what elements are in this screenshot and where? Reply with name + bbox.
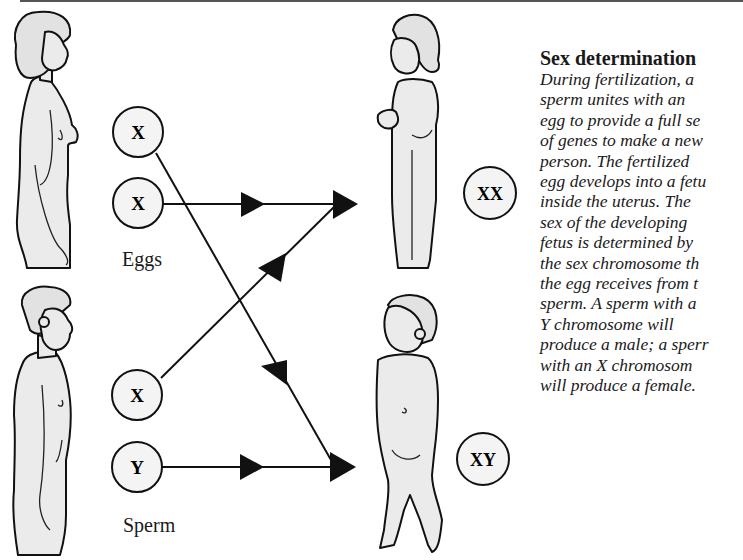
caption-line: egg develops into a fetu — [540, 171, 743, 191]
egg-cell-1-label: X — [131, 122, 145, 143]
sperm-cell-2: Y — [112, 442, 162, 492]
egg-cell-2: X — [113, 178, 163, 228]
girl-figure-icon — [378, 15, 440, 268]
offspring-xx-label: XX — [477, 184, 503, 204]
man-figure-icon — [13, 287, 72, 555]
caption-line: egg to provide a full se — [540, 110, 743, 130]
arrowheads — [240, 190, 358, 482]
offspring-xx-cell: XX — [464, 167, 516, 219]
caption-line: During fertilization, a — [540, 69, 743, 89]
caption-body: During fertilization, a sperm unites wit… — [540, 69, 743, 396]
sperm-cell-1: X — [112, 370, 162, 420]
caption-line: the sex chromosome th — [540, 253, 743, 273]
caption-line: Y chromosome will — [540, 314, 743, 334]
arrow-egg-x-mid-icon — [241, 192, 265, 217]
caption-line: inside the uterus. The — [540, 191, 743, 211]
caption-line: person. The fertilized — [540, 151, 743, 171]
caption-line: of genes to make a new — [540, 130, 743, 150]
offspring-xy-label: XY — [470, 450, 496, 470]
offspring-xy-cell: XY — [457, 433, 509, 485]
woman-figure-icon — [15, 12, 78, 268]
sperm-label: Sperm — [123, 514, 175, 537]
egg-cell-1: X — [113, 107, 163, 157]
arrow-xx-end-icon — [333, 190, 358, 219]
arrow-egg-x-down-mid-icon — [261, 360, 287, 385]
caption-line: fetus is determined by — [540, 232, 743, 252]
arrow-xy-end-icon — [330, 452, 356, 482]
caption: Sex determination During fertilization, … — [540, 47, 743, 396]
boy-figure-icon — [377, 295, 443, 552]
caption-line: will produce a female. — [540, 375, 743, 395]
caption-line: the egg receives from t — [540, 273, 743, 293]
egg-cell-2-label: X — [131, 193, 145, 214]
sperm-cell-1-label: X — [130, 385, 144, 406]
caption-title: Sex determination — [540, 47, 743, 69]
sperm-cell-2-label: Y — [130, 457, 144, 478]
caption-line: sex of the developing — [540, 212, 743, 232]
caption-line: with an X chromosom — [540, 355, 743, 375]
caption-line: produce a male; a sperr — [540, 334, 743, 354]
eggs-label: Eggs — [122, 248, 162, 271]
caption-line: sperm unites with an — [540, 89, 743, 109]
caption-line: sperm. A sperm with a — [540, 293, 743, 313]
arrow-sperm-y-mid-icon — [240, 454, 264, 480]
